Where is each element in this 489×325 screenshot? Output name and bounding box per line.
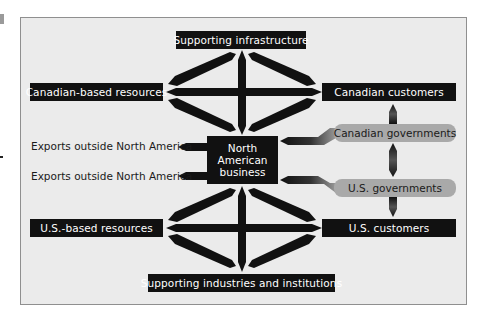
node-label: U.S. customers (349, 222, 430, 234)
bottom-arrow-cluster (166, 186, 322, 272)
node-canadian-based-resources: Canadian-based resources (30, 83, 163, 101)
node-label: Supporting industries and institutions (141, 277, 342, 289)
arrow-vertical-bottom (238, 186, 246, 272)
top-arrow-cluster (166, 50, 322, 135)
node-canadian-governments: Canadian governments (334, 124, 456, 142)
node-label: Canadian customers (334, 86, 444, 98)
arrow-gov-to-us-customers (389, 197, 397, 217)
arrow-us-gov (280, 176, 336, 193)
center-line-3: business (220, 166, 266, 178)
node-us-based-resources: U.S.-based resources (30, 219, 163, 237)
node-us-governments: U.S. governments (334, 179, 456, 197)
arrow-diag-br-up (248, 188, 316, 222)
arrow-vertical-top (238, 50, 246, 135)
node-label: Canadian governments (334, 127, 456, 139)
arrow-diag-tr-down (248, 98, 316, 132)
node-canadian-customers: Canadian customers (322, 83, 456, 101)
arrow-diag-tl-down (168, 98, 236, 132)
node-label: Canadian-based resources (26, 86, 168, 98)
center-line-2: American (218, 154, 268, 166)
node-us-customers: U.S. customers (322, 219, 456, 237)
arrow-ca-customers-to-gov (389, 104, 397, 124)
center-line-1: North (228, 142, 257, 154)
arrow-diag-bl-up (168, 188, 236, 222)
arrow-canadian-gov (280, 128, 336, 145)
node-north-american-business: North American business (207, 136, 278, 184)
node-label: Supporting infrastructure (173, 34, 308, 46)
node-supporting-industries: Supporting industries and institutions (148, 274, 335, 292)
node-label: U.S. governments (348, 182, 442, 194)
label-exports-2: Exports outside North America (31, 170, 192, 182)
arrow-diag-tr-up (248, 52, 316, 86)
arrow-diag-tl-up (168, 52, 236, 86)
label-exports-1: Exports outside North America (31, 140, 192, 152)
node-supporting-infrastructure: Supporting infrastructure (176, 31, 306, 49)
arrow-diag-bl-down (168, 234, 236, 268)
node-label: U.S.-based resources (40, 222, 153, 234)
arrow-gov-double (389, 143, 397, 177)
arrow-diag-br-down (248, 234, 316, 268)
